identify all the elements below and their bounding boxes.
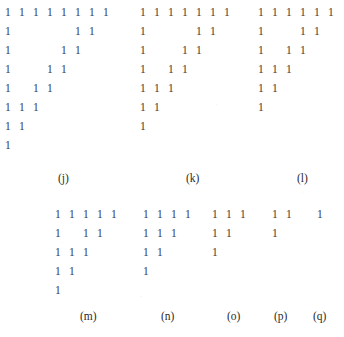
tally-mark: 1 — [286, 63, 292, 76]
tally-mark: 1 — [69, 265, 75, 278]
tally-mark: 1 — [89, 25, 95, 38]
tally-mark: 1 — [61, 63, 67, 76]
tally-mark: 1 — [168, 63, 174, 76]
tally-mark: 1 — [19, 6, 25, 19]
tally-mark: 1 — [317, 208, 323, 221]
tally-mark: 1 — [272, 208, 278, 221]
tally-mark: 1 — [171, 208, 177, 221]
tally-mark: 1 — [314, 25, 320, 38]
tally-mark: 1 — [182, 63, 188, 76]
tally-mark: 1 — [272, 82, 278, 95]
tally-mark: 1 — [143, 265, 149, 278]
figure-canvas: 11111111111111111111111111(j)11111111111… — [0, 0, 344, 337]
tally-mark: 1 — [83, 208, 89, 221]
panel-label-m: (m) — [80, 310, 97, 323]
tally-mark: 1 — [258, 6, 264, 19]
tally-mark: 1 — [140, 6, 146, 19]
tally-mark: 1 — [226, 227, 232, 240]
tally-mark: 1 — [157, 208, 163, 221]
tally-mark: 1 — [286, 208, 292, 221]
tally-mark: 1 — [47, 63, 53, 76]
tally-mark: 1 — [143, 227, 149, 240]
tally-mark: 1 — [212, 227, 218, 240]
panel-label-l: (l) — [297, 172, 308, 185]
tally-mark: 1 — [154, 82, 160, 95]
tally-mark: 1 — [272, 227, 278, 240]
tally-mark: 1 — [97, 227, 103, 240]
tally-mark: 1 — [143, 208, 149, 221]
tally-mark: 1 — [210, 6, 216, 19]
tally-mark: 1 — [5, 120, 11, 133]
tally-mark: 1 — [300, 44, 306, 57]
tally-mark: 1 — [171, 227, 177, 240]
tally-mark: 1 — [75, 44, 81, 57]
tally-mark: 1 — [5, 139, 11, 152]
tally-mark: 1 — [157, 246, 163, 259]
tally-mark: 1 — [168, 82, 174, 95]
tally-mark: 1 — [69, 246, 75, 259]
tally-mark: 1 — [55, 265, 61, 278]
tally-mark: 1 — [185, 208, 191, 221]
panel-label-n: (n) — [161, 310, 174, 323]
tally-mark: 1 — [258, 101, 264, 114]
tally-mark: 1 — [111, 208, 117, 221]
panel-label-j: (j) — [58, 172, 69, 185]
tally-mark: 1 — [240, 208, 246, 221]
tally-mark: 1 — [47, 6, 53, 19]
tally-mark: 1 — [140, 120, 146, 133]
tally-mark: 1 — [258, 63, 264, 76]
tally-mark: 1 — [55, 208, 61, 221]
tally-mark: 1 — [168, 6, 174, 19]
tally-mark: 1 — [140, 101, 146, 114]
tally-mark: 1 — [5, 82, 11, 95]
tally-mark: 1 — [97, 208, 103, 221]
tally-mark: 1 — [328, 6, 334, 19]
tally-mark: 1 — [224, 6, 230, 19]
tally-mark: 1 — [69, 208, 75, 221]
tally-mark: 1 — [61, 6, 67, 19]
panel-label-o: (o) — [227, 310, 240, 323]
tally-mark: 1 — [5, 44, 11, 57]
tally-mark: 1 — [89, 6, 95, 19]
tally-mark: 1 — [154, 6, 160, 19]
tally-mark: 1 — [226, 208, 232, 221]
tally-mark: 1 — [75, 25, 81, 38]
tally-mark: 1 — [154, 101, 160, 114]
tally-mark: 1 — [196, 25, 202, 38]
tally-mark: 1 — [61, 44, 67, 57]
tally-mark: 1 — [75, 6, 81, 19]
tally-mark: 1 — [19, 101, 25, 114]
tally-mark: 1 — [83, 246, 89, 259]
tally-mark: 1 — [300, 6, 306, 19]
panel-label-q: (q) — [313, 310, 326, 323]
tally-mark: 1 — [300, 25, 306, 38]
tally-mark: 1 — [103, 6, 109, 19]
tally-mark: 1 — [286, 44, 292, 57]
tally-mark: 1 — [140, 63, 146, 76]
panel-label-k: (k) — [186, 172, 199, 185]
tally-mark: 1 — [157, 227, 163, 240]
tally-mark: 1 — [5, 63, 11, 76]
tally-mark: 1 — [5, 101, 11, 114]
tally-mark: 1 — [33, 82, 39, 95]
tally-mark: 1 — [286, 6, 292, 19]
tally-mark: 1 — [212, 208, 218, 221]
tally-mark: 1 — [258, 44, 264, 57]
tally-mark: 1 — [140, 25, 146, 38]
tally-mark: 1 — [182, 44, 188, 57]
tally-mark: 1 — [212, 246, 218, 259]
tally-mark: 1 — [210, 25, 216, 38]
tally-mark: 1 — [258, 82, 264, 95]
tally-mark: 1 — [314, 6, 320, 19]
tally-mark: 1 — [272, 63, 278, 76]
tally-mark: 1 — [33, 6, 39, 19]
tally-mark: 1 — [83, 227, 89, 240]
tally-mark: 1 — [196, 44, 202, 57]
tally-mark: 1 — [143, 246, 149, 259]
tally-mark: 1 — [33, 101, 39, 114]
tally-mark: 1 — [47, 82, 53, 95]
tally-mark: 1 — [55, 284, 61, 297]
tally-mark: 1 — [182, 6, 188, 19]
tally-mark: 1 — [19, 120, 25, 133]
tally-mark: 1 — [5, 25, 11, 38]
